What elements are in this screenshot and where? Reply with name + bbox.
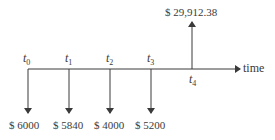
time-label-t3: t3 bbox=[147, 51, 154, 67]
outflow-amount-t1: $ 5840 bbox=[53, 119, 83, 131]
outflow-amount-t0: $ 6000 bbox=[9, 119, 39, 131]
outflow-amount-t3: $ 5200 bbox=[135, 119, 165, 131]
inflow-amount-t4: $ 29,912.38 bbox=[165, 6, 217, 18]
outflow-amount-t2: $ 4000 bbox=[94, 119, 124, 131]
time-label-t4: t4 bbox=[189, 72, 196, 88]
axis-label-time: time bbox=[243, 61, 264, 76]
time-label-t0: t0 bbox=[23, 51, 30, 67]
time-label-t1: t1 bbox=[65, 51, 72, 67]
time-label-t2: t2 bbox=[106, 51, 113, 67]
